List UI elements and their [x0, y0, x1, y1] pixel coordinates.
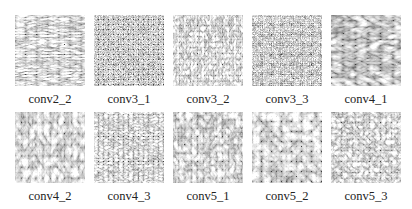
- panel-label: conv5_1: [163, 189, 253, 203]
- texture-panel-conv4-1: conv4_1: [331, 15, 401, 86]
- texture-panel-conv4-2: conv4_2: [15, 112, 85, 183]
- panel-label: conv4_2: [5, 189, 95, 203]
- panel-label: conv4_3: [84, 189, 174, 203]
- panel-label: conv3_2: [163, 92, 253, 106]
- texture-image: [252, 112, 322, 183]
- texture-image: [173, 112, 243, 183]
- panel-label: conv3_1: [84, 92, 174, 106]
- texture-panel-conv3-3: conv3_3: [252, 15, 322, 86]
- texture-image: [94, 112, 164, 183]
- cropped-caption-text: [170, 0, 410, 2]
- panel-label: conv2_2: [5, 92, 95, 106]
- panel-label: conv5_2: [242, 189, 332, 203]
- panel-label: conv3_3: [242, 92, 332, 106]
- texture-panel-conv3-2: conv3_2: [173, 15, 243, 86]
- texture-image: [173, 15, 243, 86]
- panel-label: conv5_3: [321, 189, 411, 203]
- texture-image: [331, 15, 401, 86]
- texture-panel-conv2-2: conv2_2: [15, 15, 85, 86]
- texture-image: [94, 15, 164, 86]
- texture-panel-conv3-1: conv3_1: [94, 15, 164, 86]
- texture-panel-conv5-2: conv5_2: [252, 112, 322, 183]
- texture-panel-conv5-3: conv5_3: [331, 112, 401, 183]
- texture-image: [331, 112, 401, 183]
- texture-panel-conv5-1: conv5_1: [173, 112, 243, 183]
- panel-label: conv4_1: [321, 92, 411, 106]
- texture-panel-conv4-3: conv4_3: [94, 112, 164, 183]
- texture-image: [252, 15, 322, 86]
- texture-image: [15, 112, 85, 183]
- texture-image: [15, 15, 85, 86]
